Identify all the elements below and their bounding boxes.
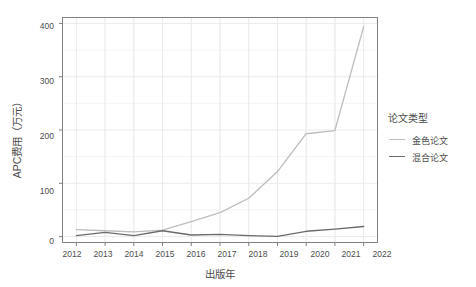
legend-label-gold: 金色论文: [412, 134, 448, 147]
legend-key-gold-line-icon: [388, 133, 406, 147]
legend-item-hybrid[interactable]: 混合论文: [388, 149, 476, 165]
legend-label-hybrid: 混合论文: [412, 151, 448, 164]
legend-title: 论文类型: [388, 110, 476, 125]
legend: 论文类型 金色论文 混合论文: [388, 110, 476, 166]
legend-item-gold[interactable]: 金色论文: [388, 132, 476, 148]
legend-key-hybrid-line-icon: [388, 150, 406, 164]
chart-container: APC费用（万元） 出版年 400 300 200 100 0 2012 201…: [0, 0, 476, 287]
